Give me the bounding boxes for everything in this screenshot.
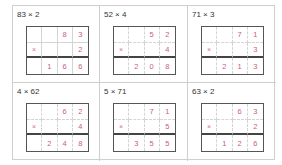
result-cell: 2 [129,58,144,74]
result-cell: 2 [42,135,57,151]
result-cell [202,58,217,74]
multiply-sign: × [202,43,217,59]
result-cell: 1 [233,58,248,74]
grid-cell [202,27,217,43]
problem-card: 63 × 2 6 3 × 2 1 2 6 [188,83,276,161]
grid-cell: 7 [233,27,248,43]
result-cell: 1 [42,58,57,74]
problem-title: 63 × 2 [192,87,214,97]
problem-card: 71 × 3 7 1 × 3 2 1 3 [188,6,276,83]
grid-cell [233,43,248,59]
grid-cell: 5 [145,27,160,43]
result-cell: 8 [160,58,175,74]
grid-cell [202,104,217,120]
result-cell: 3 [129,135,144,151]
grid-cell: 2 [73,104,88,120]
grid-cell: 1 [248,27,263,43]
grid-cell [42,43,57,59]
grid-cell: 8 [58,27,73,43]
grid-cell: 2 [73,43,88,59]
result-cell: 6 [248,135,263,151]
result-cell [114,135,129,151]
place-value-grid: 8 3 × 2 1 6 6 [26,26,89,75]
grid-cell: 5 [160,120,175,136]
grid-cell: 2 [160,27,175,43]
result-cell: 8 [73,135,88,151]
grid-cell: 4 [73,120,88,136]
grid-cell: 6 [233,104,248,120]
grid-cell [42,104,57,120]
grid-cell: 3 [73,27,88,43]
problem-card: 5 × 71 7 1 × 5 3 5 5 [100,83,188,161]
result-cell: 6 [58,58,73,74]
grid-cell [58,120,73,136]
grid-cell [145,120,160,136]
problem-title: 4 × 62 [17,87,39,97]
result-cell: 3 [248,58,263,74]
grid-cell [129,43,144,59]
problem-title: 71 × 3 [192,10,214,20]
result-cell: 1 [217,135,232,151]
result-cell: 2 [217,58,232,74]
grid-cell [27,27,42,43]
multiply-sign: × [27,43,42,59]
problem-card: 4 × 62 6 2 × 4 2 4 8 [13,83,100,161]
place-value-grid: 7 1 × 3 2 1 3 [201,26,264,75]
grid-cell [129,104,144,120]
grid-cell: 1 [160,104,175,120]
result-cell: 0 [145,58,160,74]
place-value-grid: 6 3 × 2 1 2 6 [201,103,264,152]
grid-cell [114,27,129,43]
result-cell: 5 [160,135,175,151]
multiply-sign: × [114,43,129,59]
grid-cell [217,43,232,59]
grid-cell: 2 [248,120,263,136]
multiply-sign: × [114,120,129,136]
problem-card: 52 × 4 5 2 × 4 2 0 8 [100,6,188,83]
result-cell: 5 [145,135,160,151]
result-cell: 2 [233,135,248,151]
grid-cell [129,27,144,43]
multiply-sign: × [27,120,42,136]
multiplication-worksheet: 83 × 2 8 3 × 2 1 6 6 52 × 4 5 2 × 4 [12,5,275,160]
grid-cell [114,104,129,120]
grid-cell: 3 [248,43,263,59]
problem-title: 83 × 2 [17,10,39,20]
result-cell [27,135,42,151]
problem-card: 83 × 2 8 3 × 2 1 6 6 [13,6,100,83]
result-cell [202,135,217,151]
result-cell: 6 [73,58,88,74]
result-cell: 4 [58,135,73,151]
grid-cell [217,120,232,136]
grid-cell: 6 [58,104,73,120]
place-value-grid: 5 2 × 4 2 0 8 [113,26,176,75]
grid-cell [145,43,160,59]
grid-cell [217,27,232,43]
grid-cell: 3 [248,104,263,120]
place-value-grid: 6 2 × 4 2 4 8 [26,103,89,152]
problem-title: 5 × 71 [104,87,126,97]
result-cell [114,58,129,74]
grid-cell: 7 [145,104,160,120]
grid-cell [42,27,57,43]
grid-cell [233,120,248,136]
grid-cell [217,104,232,120]
grid-cell [58,43,73,59]
grid-cell [129,120,144,136]
grid-cell: 4 [160,43,175,59]
result-cell [27,58,42,74]
place-value-grid: 7 1 × 5 3 5 5 [113,103,176,152]
grid-cell [27,104,42,120]
multiply-sign: × [202,120,217,136]
problem-title: 52 × 4 [104,10,126,20]
grid-cell [42,120,57,136]
